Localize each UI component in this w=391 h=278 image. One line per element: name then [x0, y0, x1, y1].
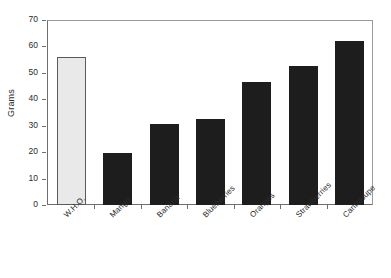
y-axis-tick-label: 70	[29, 14, 38, 25]
bars-layer	[48, 20, 373, 205]
y-axis-tick-label: 20	[29, 146, 38, 157]
y-axis-tick-label: 60	[29, 40, 38, 51]
y-axis-title: Grams	[0, 0, 22, 205]
y-axis-tick-mark	[42, 46, 46, 47]
bar[interactable]	[335, 41, 364, 205]
bar[interactable]	[242, 82, 271, 205]
bar[interactable]	[289, 66, 318, 205]
y-axis-tick-label: 30	[29, 120, 38, 131]
bar-chart: Grams 010203040506070 W.H.O.MangoBananaB…	[0, 0, 391, 278]
y-axis-tick-mark	[42, 179, 46, 180]
y-axis-tick-label: 40	[29, 93, 38, 104]
x-axis-labels: W.H.O.MangoBananaBlueberriesOrangesStraw…	[0, 205, 391, 278]
y-axis-tick-mark	[42, 152, 46, 153]
y-axis-title-label: Grams	[6, 89, 16, 117]
y-axis-tick-mark	[42, 99, 46, 100]
y-axis-tick-mark	[42, 20, 46, 21]
bar[interactable]	[57, 57, 86, 205]
y-axis-tick-label: 50	[29, 67, 38, 78]
y-axis-tick-mark	[42, 73, 46, 74]
y-axis-tick-mark	[42, 126, 46, 127]
y-axis-tick-label: 10	[29, 173, 38, 184]
